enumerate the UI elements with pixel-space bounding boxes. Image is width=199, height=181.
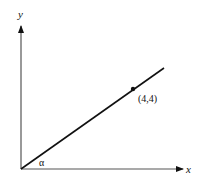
- point-label: (4,4): [138, 93, 157, 105]
- x-axis-label: x: [185, 163, 191, 175]
- y-axis-label: y: [17, 8, 23, 20]
- angle-label: α: [39, 157, 45, 168]
- point-marker: [131, 87, 135, 91]
- coordinate-diagram: y x (4,4) α: [0, 0, 199, 181]
- line-through-origin: [21, 68, 164, 169]
